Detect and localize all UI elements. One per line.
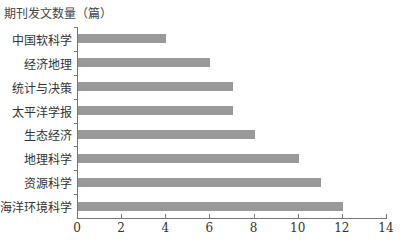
bar xyxy=(78,58,210,67)
y-tick xyxy=(74,27,77,28)
y-axis-title: 期刊发文数量（篇） xyxy=(4,4,112,21)
x-tick-label: 8 xyxy=(239,221,269,235)
y-axis-line xyxy=(77,27,78,218)
x-tick xyxy=(342,214,343,218)
bar xyxy=(78,202,343,211)
x-tick xyxy=(165,214,166,218)
x-tick-label: 10 xyxy=(283,221,313,235)
x-axis-line xyxy=(77,218,387,219)
category-label: 资源科学 xyxy=(24,174,72,191)
bar xyxy=(78,154,299,163)
x-tick-label: 2 xyxy=(106,221,136,235)
category-label: 地理科学 xyxy=(24,150,72,167)
x-tick xyxy=(209,214,210,218)
y-tick xyxy=(74,99,77,100)
x-tick xyxy=(386,214,387,218)
bar xyxy=(78,106,233,115)
category-label: 统计与决策 xyxy=(12,79,72,96)
category-label: 经济地理 xyxy=(24,55,72,72)
x-tick xyxy=(298,214,299,218)
x-tick-label: 4 xyxy=(150,221,180,235)
y-tick xyxy=(74,51,77,52)
x-tick-label: 6 xyxy=(194,221,224,235)
category-label: 中国软科学 xyxy=(12,31,72,48)
bar xyxy=(78,130,255,139)
bar xyxy=(78,34,166,43)
x-tick-label: 0 xyxy=(62,221,92,235)
y-tick xyxy=(74,75,77,76)
category-label: 生态经济 xyxy=(24,126,72,143)
y-tick xyxy=(74,170,77,171)
x-tick xyxy=(77,214,78,218)
bar xyxy=(78,82,233,91)
x-tick-label: 14 xyxy=(371,221,400,235)
category-label: 太平洋学报 xyxy=(12,103,72,120)
x-tick xyxy=(121,214,122,218)
x-tick-label: 12 xyxy=(327,221,357,235)
y-tick xyxy=(74,146,77,147)
y-tick xyxy=(74,194,77,195)
category-label: 海洋环境科学 xyxy=(0,198,72,215)
x-tick xyxy=(254,214,255,218)
bar xyxy=(78,178,321,187)
y-tick xyxy=(74,123,77,124)
